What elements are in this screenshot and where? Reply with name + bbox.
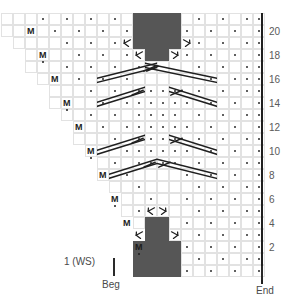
chart-cell-filled	[145, 25, 157, 37]
purl-dot-symbol	[222, 162, 224, 164]
chart-cell	[157, 181, 169, 193]
left-decrease-icon	[145, 205, 157, 217]
purl-dot-symbol	[222, 18, 224, 20]
chart-cell	[85, 49, 97, 61]
chart-cell	[193, 25, 205, 37]
purl-dot-symbol	[126, 54, 128, 56]
purl-dot-symbol	[258, 162, 260, 164]
chart-cell	[49, 97, 61, 109]
chart-cell	[229, 133, 241, 145]
purl-dot-symbol	[78, 30, 80, 32]
chart-cell-filled	[133, 37, 145, 49]
make-one-marker: M	[123, 219, 131, 228]
chart-cell	[217, 169, 229, 181]
purl-dot-symbol	[138, 114, 140, 116]
chart-cell	[217, 49, 229, 61]
purl-dot-symbol	[234, 126, 236, 128]
chart-cell	[121, 109, 133, 121]
purl-dot-symbol	[198, 114, 200, 116]
chart-cell	[49, 37, 61, 49]
purl-dot-symbol	[246, 138, 248, 140]
chart-cell	[205, 253, 217, 265]
purl-dot-symbol	[246, 90, 248, 92]
purl-dot-symbol	[186, 270, 188, 272]
cable-travel-lines	[109, 155, 157, 179]
purl-dot-symbol	[246, 234, 248, 236]
purl-dot-symbol	[258, 258, 260, 260]
make-one-marker: M	[63, 99, 71, 108]
cable-travel-lines	[169, 131, 217, 155]
purl-dot-symbol	[222, 42, 224, 44]
chart-cell	[25, 37, 37, 49]
chart-cell	[181, 205, 193, 217]
chart-cell	[229, 157, 241, 169]
purl-dot-symbol	[162, 126, 164, 128]
row-number-label: 8	[269, 171, 275, 181]
purl-dot-symbol	[126, 30, 128, 32]
cable-travel-lines	[97, 83, 145, 107]
purl-dot-symbol	[174, 126, 176, 128]
purl-dot-symbol	[174, 114, 176, 116]
chart-cell	[217, 97, 229, 109]
chart-cell	[193, 193, 205, 205]
purl-dot-symbol	[246, 114, 248, 116]
purl-dot-symbol	[234, 198, 236, 200]
chart-cell	[217, 241, 229, 253]
chart-cell	[193, 217, 205, 229]
purl-dot-symbol	[150, 114, 152, 116]
purl-dot-symbol	[258, 90, 260, 92]
purl-dot-symbol	[90, 90, 92, 92]
purl-dot-symbol	[246, 258, 248, 260]
chart-cell	[13, 37, 25, 49]
chart-cell	[217, 121, 229, 133]
chart-cell	[241, 217, 253, 229]
purl-dot-symbol	[234, 222, 236, 224]
purl-dot-symbol	[186, 198, 188, 200]
purl-dot-symbol	[222, 66, 224, 68]
chart-cell	[109, 25, 121, 37]
purl-dot-symbol	[222, 114, 224, 116]
chart-cell	[217, 73, 229, 85]
purl-dot-symbol	[78, 78, 80, 80]
end-tick-mark	[261, 266, 263, 280]
chart-cell-filled	[157, 13, 169, 25]
purl-dot-symbol	[210, 30, 212, 32]
purl-dot-symbol	[54, 30, 56, 32]
purl-dot-symbol	[138, 210, 140, 212]
chart-cell	[157, 193, 169, 205]
purl-dot-symbol	[258, 246, 260, 248]
chart-cell	[229, 229, 241, 241]
purl-dot-symbol	[258, 270, 260, 272]
purl-dot-symbol	[162, 90, 164, 92]
chart-cell	[49, 49, 61, 61]
purl-dot-symbol	[258, 222, 260, 224]
purl-dot-symbol	[234, 270, 236, 272]
chart-cell	[217, 25, 229, 37]
chart-cell	[229, 37, 241, 49]
cable-travel-lines	[157, 155, 217, 179]
chart-cell	[241, 121, 253, 133]
chart-cell-filled	[169, 37, 181, 49]
chart-cell	[37, 25, 49, 37]
purl-dot-symbol	[258, 186, 260, 188]
chart-cell	[217, 145, 229, 157]
chart-cell	[181, 13, 193, 25]
chart-cell-filled	[169, 253, 181, 265]
purl-dot-symbol	[150, 138, 152, 140]
chart-cell	[13, 13, 25, 25]
purl-dot-symbol	[150, 198, 152, 200]
chart-cell	[241, 97, 253, 109]
chart-cell-filled	[169, 13, 181, 25]
purl-dot-symbol	[138, 186, 140, 188]
purl-dot-symbol	[258, 198, 260, 200]
purl-dot-symbol	[210, 222, 212, 224]
chart-cell	[73, 97, 85, 109]
purl-dot-symbol	[222, 234, 224, 236]
purl-dot-symbol	[222, 90, 224, 92]
chart-cell	[229, 253, 241, 265]
chart-cell	[181, 229, 193, 241]
chart-cell	[49, 61, 61, 73]
purl-dot-symbol	[258, 174, 260, 176]
chart-cell	[205, 229, 217, 241]
purl-dot-symbol	[150, 90, 152, 92]
